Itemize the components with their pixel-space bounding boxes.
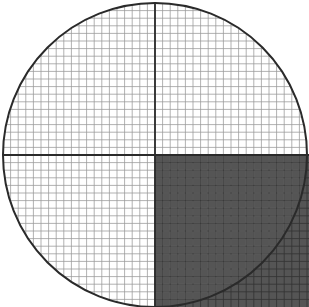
diagram-canvas: Circle on grid with shaded quadrant squa…	[0, 0, 309, 307]
circle-grid-figure	[0, 0, 309, 307]
